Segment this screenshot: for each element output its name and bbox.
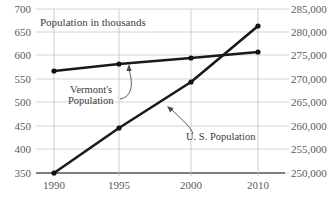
- left-tick-label: 400: [15, 143, 32, 155]
- x-tick-label: 2000: [180, 179, 203, 191]
- data-point-us-2010: [255, 23, 260, 28]
- left-tick-label: 450: [15, 120, 32, 132]
- left-tick-label: 700: [15, 3, 32, 15]
- right-tick-label: 280,000: [291, 26, 327, 38]
- right-tick-label: 270,000: [291, 73, 327, 85]
- data-point-vermont-1995: [116, 61, 121, 66]
- data-point-us-2000: [188, 79, 193, 84]
- right-tick-label: 260,000: [291, 120, 327, 132]
- right-tick-label: 275,000: [291, 49, 327, 61]
- x-tick-label: 1990: [43, 179, 66, 191]
- left-tick-label: 600: [15, 49, 32, 61]
- data-point-us-1995: [116, 125, 121, 130]
- x-tick-label: 2010: [247, 179, 270, 191]
- right-tick-label: 265,000: [291, 96, 327, 108]
- population-line-chart: 700 650 600 550 500 450 400 350 285,000 …: [0, 0, 332, 204]
- annotation-us-line1: U. S. Population: [186, 131, 256, 142]
- right-tick-label: 255,000: [291, 143, 327, 155]
- data-point-us-1990: [51, 170, 56, 175]
- left-tick-label: 500: [15, 96, 32, 108]
- right-tick-label: 285,000: [291, 3, 327, 15]
- left-tick-label: 650: [15, 26, 32, 38]
- x-tick-label: 1995: [108, 179, 131, 191]
- chart-canvas: 700 650 600 550 500 450 400 350 285,000 …: [0, 0, 332, 204]
- data-point-vermont-2010: [255, 49, 260, 54]
- left-tick-label: 350: [15, 167, 32, 179]
- data-point-vermont-1990: [51, 68, 56, 73]
- annotation-vermont-line1: Vermont's: [70, 84, 112, 95]
- left-tick-label: 550: [15, 73, 32, 85]
- chart-title: Population in thousands: [40, 16, 146, 28]
- right-tick-label: 250,000: [291, 167, 327, 179]
- annotation-vermont-line2: Population: [68, 95, 114, 106]
- data-point-vermont-2000: [188, 55, 193, 60]
